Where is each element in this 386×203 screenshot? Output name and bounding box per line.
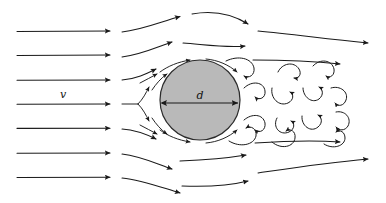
eddy-arrow [272, 130, 295, 147]
eddy-arrow [336, 112, 349, 130]
streamline-deflected [122, 154, 172, 169]
streamline-deflected [122, 42, 172, 57]
eddy-arrow [275, 118, 293, 133]
streamline-deflected [122, 69, 156, 80]
streamline-deflected [122, 17, 180, 33]
streamline-downstream [258, 159, 368, 173]
flow-diagram: v d [0, 0, 386, 203]
eddy-arrow [272, 88, 293, 104]
eddy-arrow [303, 87, 322, 101]
streamline-downstream [192, 12, 248, 24]
eddy-arrow [229, 127, 256, 145]
eddy-arrow [244, 83, 265, 99]
eddy-arrow [278, 64, 300, 78]
streamline-surface-lead [152, 118, 167, 134]
streamline-downstream [258, 31, 368, 43]
upstream-streamlines [17, 31, 110, 177]
streamline-downstream [182, 181, 248, 186]
streamline-deflected [122, 178, 180, 193]
eddy-arrow [324, 131, 345, 147]
streamline-downstream [255, 141, 340, 143]
streamline-downstream [183, 43, 245, 47]
eddy-arrow [331, 87, 347, 105]
streamline-stagnation-branch [138, 104, 149, 121]
flow-diagram-canvas: v d [0, 0, 386, 203]
wake-eddies [226, 58, 349, 147]
streamline-nose-curl [140, 125, 157, 134]
streamline-downstream [253, 60, 340, 64]
streamline-downstream [180, 155, 246, 161]
eddy-arrow [302, 115, 321, 129]
velocity-label: v [60, 88, 67, 101]
diameter-label: d [196, 89, 203, 102]
streamline-stagnation-branch [138, 87, 149, 104]
